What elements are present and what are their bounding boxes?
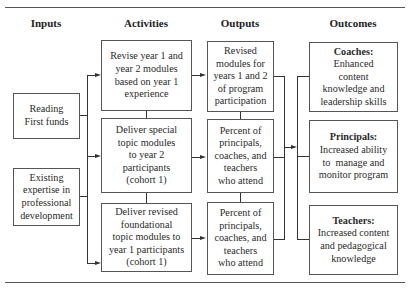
connector-output1	[273, 76, 284, 77]
activity-text-line: (cohort 1)	[126, 174, 166, 187]
connector-output3	[273, 239, 284, 240]
connector-input-bus	[87, 75, 88, 263]
activity-text-line: topic modules	[118, 137, 175, 150]
outcome-text-line: Enhanced	[333, 58, 373, 71]
outcome-text-line: to manage and	[323, 157, 385, 170]
outcome-title: Coaches:	[334, 46, 374, 57]
activity-text-line: participants	[123, 162, 171, 175]
output-link-1-2	[240, 111, 241, 119]
input-text-line: Existing	[30, 172, 64, 185]
input-box-existing-expertise: Existing expertise in professional devel…	[13, 168, 80, 226]
activity-text-line: experience	[124, 88, 168, 101]
output-box-percent-attend-1: Percent of principals, coaches, and teac…	[207, 119, 274, 193]
input-box-reading-first-funds: Reading First funds	[13, 93, 80, 139]
connector-outcome-bus	[297, 76, 298, 240]
output-box-percent-attend-2: Percent of principals, coaches, and teac…	[207, 202, 274, 275]
outcome-box-principals: Principals: Increased ability to manage …	[309, 120, 398, 193]
header-outcomes: Outcomes	[309, 17, 397, 29]
connector-to-outcome1	[297, 76, 309, 77]
header-inputs: Inputs	[13, 17, 79, 29]
activity-text-line: based on year 1	[115, 76, 179, 89]
activity-box-revise-modules: Revise year 1 and year 2 modules based o…	[101, 40, 192, 111]
input-text-line: First funds	[25, 116, 69, 129]
header-outputs: Outputs	[207, 17, 273, 29]
activity-text-line: Revise year 1 and	[110, 50, 183, 63]
output-text-line: coaches, and	[214, 150, 266, 163]
activity-text-line: year 1 participants	[109, 244, 184, 257]
outcome-box-teachers: Teachers: Increased content and pedagogi…	[309, 205, 398, 275]
outcome-text-line: knowledge	[331, 253, 376, 266]
outcome-text-line: content	[339, 71, 369, 84]
activity-text-line: year 2 modules	[115, 63, 177, 76]
outcome-text-line: Increased content	[318, 227, 390, 240]
connector-output-bus	[284, 76, 285, 240]
output-link-2-3	[240, 192, 241, 202]
input-text-line: Reading	[30, 103, 64, 116]
arrowhead-icon	[200, 236, 206, 240]
output-text-line: principals,	[219, 220, 262, 233]
activity-text-line: topic modules to	[113, 231, 181, 244]
input-text-line: expertise in	[23, 184, 70, 197]
activity-box-deliver-revised: Deliver revised foundational topic modul…	[101, 203, 192, 272]
output-text-line: Percent of	[220, 207, 262, 220]
output-text-line: principals,	[219, 137, 262, 150]
input-text-line: professional	[22, 197, 72, 210]
output-text-line: teachers	[224, 245, 257, 258]
output-text-line: who attend	[218, 257, 263, 270]
activity-text-line: to year 2	[129, 149, 165, 162]
output-text-line: Revised	[224, 45, 257, 58]
connector-output2	[273, 157, 284, 158]
activity-text-line: foundational	[121, 219, 173, 232]
output-text-line: participation	[215, 95, 267, 108]
outcome-text-line: knowledge and	[323, 83, 385, 96]
output-text-line: of program	[218, 83, 264, 96]
output-box-revised-modules: Revised modules for years 1 and 2 of pro…	[207, 41, 274, 112]
activity-link-1-2	[146, 110, 147, 118]
output-text-line: modules for	[216, 58, 265, 71]
output-text-line: Percent of	[220, 125, 262, 138]
activity-link-2-3	[146, 192, 147, 203]
activity-text-line: Deliver revised	[115, 206, 178, 219]
top-rule	[5, 7, 405, 8]
output-text-line: teachers	[224, 162, 257, 175]
output-text-line: years 1 and 2	[213, 70, 267, 83]
activity-text-line: Deliver special	[116, 124, 177, 137]
bottom-rule	[5, 282, 405, 283]
outcome-title: Principals:	[330, 131, 378, 142]
activity-box-deliver-special: Deliver special topic modules to year 2 …	[101, 118, 192, 193]
outcome-text-line: monitor program	[319, 169, 388, 182]
activity-text-line: (cohort 1)	[126, 256, 166, 269]
outcome-box-coaches: Coaches: Enhanced content knowledge and …	[309, 42, 398, 112]
outcome-text-line: and pedagogical	[320, 240, 386, 253]
arrowhead-icon	[200, 155, 206, 159]
outcome-text-line: Increased ability	[320, 144, 388, 157]
header-activities: Activities	[101, 17, 191, 29]
input-text-line: development	[20, 210, 73, 223]
outcome-title: Teachers:	[332, 215, 374, 226]
output-text-line: who attend	[218, 175, 263, 188]
output-text-line: coaches, and	[214, 232, 266, 245]
connector-to-outcome2	[297, 156, 309, 157]
outcome-text-line: leadership skills	[321, 96, 387, 109]
arrowhead-icon	[200, 73, 206, 77]
connector-to-outcome3	[297, 239, 309, 240]
